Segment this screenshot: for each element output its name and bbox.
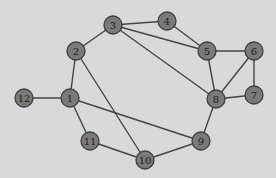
node-label: 6	[251, 46, 257, 57]
node-label: 3	[110, 20, 116, 31]
node-label: 7	[251, 90, 257, 101]
node-label: 11	[84, 136, 97, 147]
node-label: 2	[73, 46, 79, 57]
node-label: 5	[204, 46, 210, 57]
nodes-layer: 123456789101112	[15, 12, 263, 169]
node-3: 3	[104, 16, 122, 34]
node-label: 10	[139, 155, 152, 166]
edge-3-8	[113, 25, 216, 99]
node-6: 6	[245, 42, 263, 60]
edge-3-5	[113, 25, 207, 51]
graph-diagram: 123456789101112	[0, 0, 276, 178]
node-7: 7	[245, 86, 263, 104]
node-10: 10	[136, 151, 154, 169]
node-9: 9	[192, 132, 210, 150]
node-label: 4	[164, 16, 170, 27]
node-label: 8	[213, 94, 219, 105]
node-8: 8	[207, 90, 225, 108]
node-label: 12	[18, 93, 31, 104]
node-11: 11	[81, 132, 99, 150]
node-1: 1	[61, 89, 79, 107]
node-4: 4	[158, 12, 176, 30]
node-label: 1	[67, 93, 73, 104]
node-label: 9	[198, 136, 204, 147]
node-5: 5	[198, 42, 216, 60]
node-2: 2	[67, 42, 85, 60]
node-12: 12	[15, 89, 33, 107]
